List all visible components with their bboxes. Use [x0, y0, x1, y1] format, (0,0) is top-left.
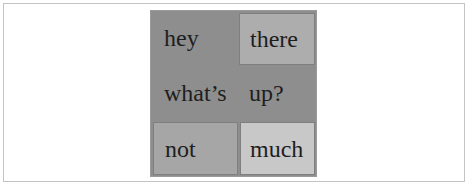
table-cell-r2c2: up? [239, 65, 315, 121]
table-cell-r3c1: not [153, 122, 238, 175]
table-cell-r2c1: what’s [151, 65, 238, 121]
table-cell-r1c1: hey [151, 11, 238, 65]
table-cell-r3c2: much [240, 122, 315, 175]
table-cell-r1c2: there [239, 13, 315, 65]
grid-table: hey there what’s up? not much [150, 10, 317, 177]
